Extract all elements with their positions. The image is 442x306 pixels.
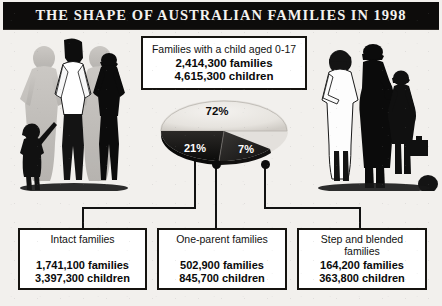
category-families-0: 1,741,100 families — [35, 259, 130, 271]
category-values-1: 502,900 families 845,700 children — [179, 259, 265, 284]
connector-step-horizontal — [264, 207, 361, 209]
category-children-1: 845,700 children — [179, 272, 265, 284]
page-title-bar: THE SHAPE OF AUSTRALIAN FAMILIES IN 1998 — [3, 2, 439, 29]
page-title: THE SHAPE OF AUSTRALIAN FAMILIES IN 1998 — [35, 7, 406, 24]
summary-caption: Families with a child aged 0-17 — [152, 43, 296, 55]
pie-label-72: 72% — [205, 105, 228, 117]
category-label-0: Intact families — [50, 234, 114, 246]
pie-label-21: 21% — [184, 142, 206, 154]
category-box-intact-families: Intact families 1,741,100 families 3,397… — [18, 228, 147, 290]
connector-intact-vertical-down — [82, 207, 84, 230]
poster-canvas: THE SHAPE OF AUSTRALIAN FAMILIES IN 1998 — [0, 0, 442, 306]
summary-families: 2,414,300 families — [175, 57, 272, 70]
category-children-2: 363,800 children — [319, 272, 405, 284]
category-children-0: 3,397,300 children — [35, 272, 130, 284]
pie-chart: 72% 21% 7% — [157, 93, 291, 173]
category-box-one-parent-families: One-parent families 502,900 families 845… — [157, 228, 287, 290]
category-label-2: Step and blended families — [307, 234, 417, 257]
connector-intact-horizontal — [82, 207, 196, 209]
category-families-1: 502,900 families — [179, 259, 265, 271]
connector-dot-step-blended — [261, 160, 270, 169]
silhouette-family-group-right-icon — [310, 36, 438, 191]
category-values-0: 1,741,100 families 3,397,300 children — [35, 259, 130, 284]
category-box-step-and-blended-families: Step and blended families 164,200 famili… — [297, 228, 427, 290]
category-families-2: 164,200 families — [319, 259, 405, 271]
connector-dot-one-parent — [212, 160, 221, 169]
connector-step-vertical-down — [359, 207, 361, 230]
connector-one-parent-vertical — [215, 164, 217, 230]
category-label-1: One-parent families — [176, 234, 268, 246]
category-values-2: 164,200 families 363,800 children — [319, 259, 405, 284]
silhouette-family-group-left-icon — [8, 36, 140, 191]
summary-children: 4,615,300 children — [174, 70, 273, 83]
summary-box: Families with a child aged 0-17 2,414,30… — [141, 36, 307, 90]
pie-label-7: 7% — [238, 143, 254, 155]
